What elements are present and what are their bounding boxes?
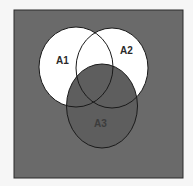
- venn-diagram: A1 A2 A3: [0, 0, 193, 186]
- label-a3: A3: [94, 118, 107, 129]
- label-a2: A2: [120, 45, 133, 56]
- label-a1: A1: [56, 55, 69, 66]
